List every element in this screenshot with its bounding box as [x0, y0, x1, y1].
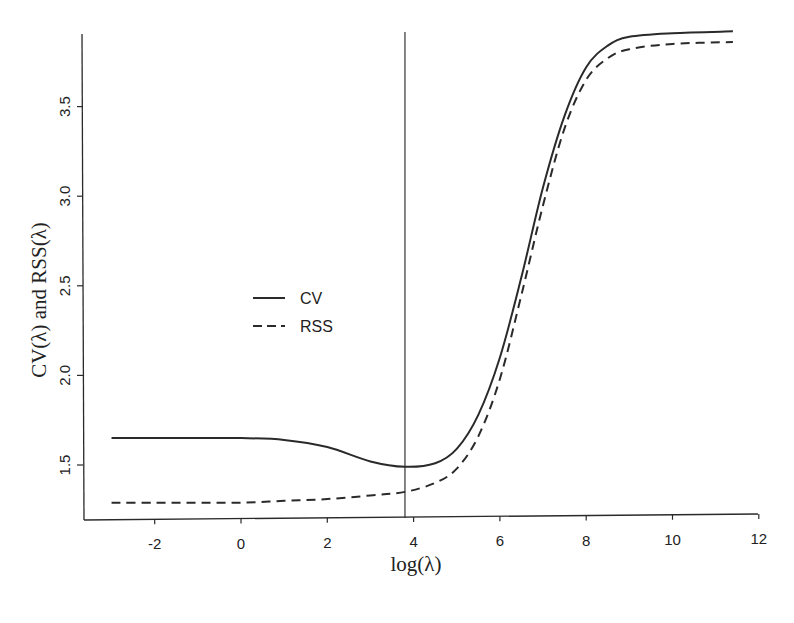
x-tick-label: 6 [496, 532, 504, 549]
x-axis-line [84, 514, 758, 520]
axes: -20246810121.52.02.53.03.5 [56, 32, 767, 552]
rss-curve [112, 42, 733, 503]
cv-curve [112, 31, 733, 467]
x-tick-label: 0 [237, 535, 245, 552]
y-tick-label: 1.5 [56, 455, 73, 476]
x-tick-label: 4 [409, 533, 417, 550]
x-tick-label: 8 [582, 532, 590, 549]
legend-label-cv: CV [300, 290, 323, 307]
legend-label-rss: RSS [300, 318, 333, 335]
x-tick-label: 12 [750, 530, 767, 547]
y-tick-label: 2.5 [56, 275, 73, 296]
y-tick-label: 3.0 [56, 186, 73, 207]
legend: CVRSS [253, 290, 333, 335]
x-tick-label: -2 [148, 535, 161, 552]
cv-rss-chart: -20246810121.52.02.53.03.5 CVRSS log(λ) … [0, 0, 794, 623]
y-tick-label: 3.5 [56, 96, 73, 117]
x-axis-title: log(λ) [390, 552, 441, 576]
y-axis-title: CV(λ) and RSS(λ) [27, 222, 51, 378]
y-tick-label: 2.0 [56, 365, 73, 386]
x-tick-label: 2 [323, 534, 331, 551]
x-tick-label: 10 [664, 531, 681, 548]
curves [112, 31, 733, 502]
